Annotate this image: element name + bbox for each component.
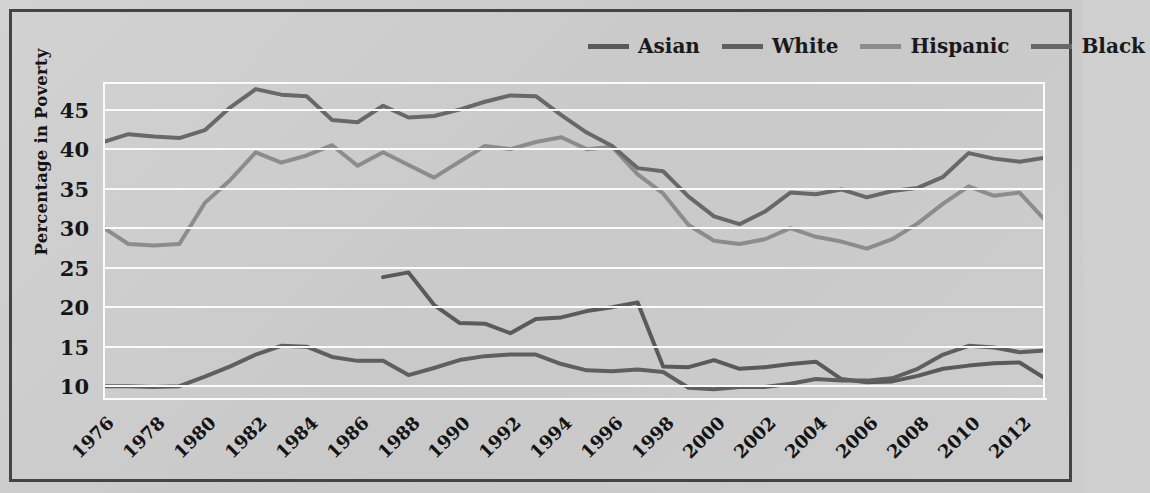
series-line-hispanic bbox=[103, 137, 1045, 248]
x-axis-tick-text: 2002 bbox=[730, 412, 780, 462]
x-axis-tick-text: 1996 bbox=[577, 412, 627, 462]
y-axis-tick-label: 25 bbox=[60, 255, 89, 280]
legend-swatch-icon bbox=[1031, 44, 1072, 49]
legend-swatch-icon bbox=[722, 44, 763, 49]
legend-label: Black bbox=[1081, 36, 1145, 56]
x-axis-tick-text: 1986 bbox=[322, 412, 372, 462]
axis-baseline bbox=[103, 398, 1047, 400]
gridline bbox=[103, 306, 1045, 308]
x-axis-tick-text: 2008 bbox=[882, 412, 932, 462]
x-axis-tick-text: 2000 bbox=[679, 412, 729, 462]
legend-label: White bbox=[772, 36, 839, 56]
x-axis-tick-text: 1994 bbox=[526, 412, 576, 462]
x-axis-tick-text: 2006 bbox=[831, 412, 881, 462]
x-axis-tick-text: 1990 bbox=[424, 412, 474, 462]
gridline bbox=[103, 227, 1045, 229]
x-axis-tick-text: 1978 bbox=[118, 412, 168, 462]
legend-item-hispanic[interactable]: Hispanic bbox=[860, 36, 1009, 56]
y-axis-tick-label: 35 bbox=[60, 176, 89, 201]
legend-label: Hispanic bbox=[910, 36, 1009, 56]
y-axis-tick-label: 30 bbox=[60, 216, 89, 241]
gridline bbox=[103, 267, 1045, 269]
legend-swatch-icon bbox=[588, 44, 629, 49]
y-axis: Percentage in Poverty 1015202530354045 bbox=[0, 0, 103, 316]
y-axis-tick-label: 40 bbox=[60, 137, 89, 162]
gridline bbox=[103, 148, 1045, 150]
legend-swatch-icon bbox=[860, 44, 901, 49]
plot-area: 1976197819801982198419861988199019921994… bbox=[103, 82, 1045, 398]
legend-label: Asian bbox=[638, 36, 700, 56]
x-axis-tick-text: 1998 bbox=[628, 412, 678, 462]
x-axis-tick-text: 1988 bbox=[373, 412, 423, 462]
legend-item-asian[interactable]: Asian bbox=[588, 36, 700, 56]
series-line-asian bbox=[383, 272, 1045, 382]
y-axis-tick-label: 10 bbox=[60, 374, 89, 399]
legend-item-black[interactable]: Black bbox=[1031, 36, 1145, 56]
gridline bbox=[103, 346, 1045, 348]
x-axis-tick-text: 2012 bbox=[984, 412, 1034, 462]
y-axis-tick-label: 45 bbox=[60, 97, 89, 122]
x-axis-tick-text: 1984 bbox=[271, 412, 321, 462]
gridline bbox=[103, 109, 1045, 111]
y-axis-tick-label: 20 bbox=[60, 295, 89, 320]
x-axis-tick-text: 1982 bbox=[220, 412, 270, 462]
x-axis: 1976197819801982198419861988199019921994… bbox=[103, 402, 1045, 492]
y-axis-tick-label: 15 bbox=[60, 334, 89, 359]
x-axis-tick-text: 2004 bbox=[780, 412, 830, 462]
series-lines bbox=[103, 82, 1045, 398]
gridline bbox=[103, 188, 1045, 190]
x-axis-tick-text: 1980 bbox=[169, 412, 219, 462]
chart-legend: AsianWhiteHispanicBlack bbox=[588, 33, 1150, 59]
x-axis-tick-text: 2010 bbox=[933, 412, 983, 462]
legend-item-white[interactable]: White bbox=[722, 36, 839, 56]
x-axis-tick-text: 1992 bbox=[475, 412, 525, 462]
y-axis-title: Percentage in Poverty bbox=[32, 48, 51, 255]
